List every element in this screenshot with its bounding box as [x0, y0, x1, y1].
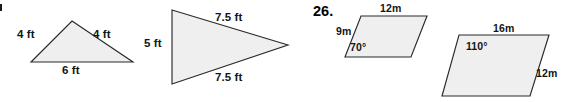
- triangle-4ft-4ft-6ft: [31, 21, 133, 62]
- question-number-26: 26.: [313, 4, 333, 19]
- parallelogram4-right-side-label: 12m: [536, 68, 557, 79]
- triangle2-lower-side-label: 7.5 ft: [215, 72, 242, 84]
- triangle1-left-side-label: 4 ft: [17, 29, 35, 41]
- parallelogram4-angle-label: 110°: [466, 41, 488, 52]
- parallelogram3-angle-label: 70°: [350, 42, 366, 53]
- parallelogram-16m-12m-110deg: [442, 35, 549, 96]
- geometry-worksheet: 4 ft 4 ft 6 ft 5 ft 7.5 ft 7.5 ft 26. 12…: [0, 0, 564, 102]
- triangle1-base-label: 6 ft: [62, 65, 80, 77]
- parallelogram4-top-side-label: 16m: [493, 23, 514, 34]
- triangle2-upper-side-label: 7.5 ft: [215, 12, 242, 24]
- parallelogram3-top-side-label: 12m: [380, 3, 401, 14]
- triangle1-right-side-label: 4 ft: [93, 29, 111, 41]
- triangle2-left-side-label: 5 ft: [144, 38, 162, 50]
- parallelogram3-left-side-label: 9m: [336, 26, 351, 37]
